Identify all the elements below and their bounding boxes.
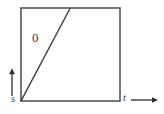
vertical-axis-arrow-icon xyxy=(9,68,15,96)
region-zero-label: 0 xyxy=(32,31,39,44)
square-boundary-shape xyxy=(21,8,120,101)
vertical-axis-label-s: s xyxy=(11,94,15,104)
diagonal-line-shape xyxy=(21,9,70,101)
horizontal-axis-arrow-icon xyxy=(131,97,158,103)
figure-container: 0 s t xyxy=(0,0,164,114)
horizontal-axis-label-t: t xyxy=(123,93,126,103)
diagram-canvas xyxy=(0,0,164,114)
